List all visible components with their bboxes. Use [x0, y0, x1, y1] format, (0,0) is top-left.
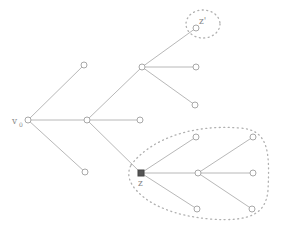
edge-f-f1 — [198, 137, 253, 173]
node-d2 — [193, 64, 199, 70]
tree-diagram: v 0 z z' — [0, 0, 281, 235]
node-c — [82, 169, 88, 175]
node-b — [84, 117, 90, 123]
edge-d-d3 — [142, 67, 195, 105]
root-label-subscript: 0 — [19, 121, 23, 128]
edge-b-z — [87, 120, 141, 173]
edge-d-zp — [142, 28, 196, 67]
node-a — [81, 62, 87, 68]
edge-v0-c — [28, 120, 85, 172]
node-z3 — [194, 206, 200, 212]
node-d — [139, 64, 145, 70]
edge-b-d — [87, 67, 142, 120]
node-f2 — [250, 170, 256, 176]
root-label: v — [11, 116, 18, 126]
node-f1 — [250, 134, 256, 140]
z-label: z — [138, 178, 143, 188]
node-f — [195, 170, 201, 176]
node-v0 — [25, 117, 31, 123]
highlight-regions — [129, 10, 269, 220]
z-prime-label: z' — [199, 16, 206, 26]
edge-v0-a — [28, 65, 84, 120]
edge-z-z3 — [141, 173, 197, 209]
edge-f-f3 — [198, 173, 252, 209]
node-z1 — [193, 134, 199, 140]
node-f3 — [249, 206, 255, 212]
edge-z-z1 — [141, 137, 196, 173]
node-z — [138, 170, 144, 176]
node-d3 — [192, 102, 198, 108]
node-e — [137, 117, 143, 123]
